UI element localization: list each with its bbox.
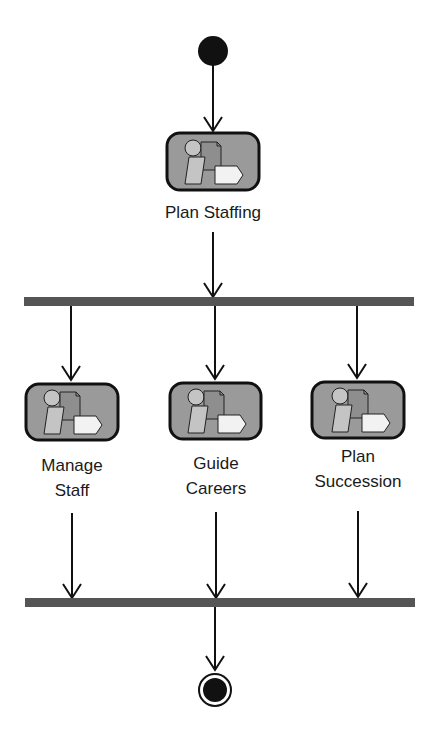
edge-start-to-plan-staffing: [204, 64, 222, 131]
edge-fork-to-plan-succession: [348, 306, 366, 378]
activity-plan-succession[interactable]: [312, 382, 404, 438]
label-manage-staff: Manage Staff: [41, 453, 102, 503]
activity-plan-staffing[interactable]: [167, 133, 259, 190]
edge-fork-to-guide-careers: [206, 306, 224, 379]
label-line: Staff: [41, 478, 102, 503]
label-guide-careers: Guide Careers: [186, 451, 246, 501]
activity-manage-staff[interactable]: [26, 384, 118, 440]
edge-fork-to-manage-staff: [62, 306, 80, 380]
label-line: Careers: [186, 476, 246, 501]
label-line: Plan Staffing: [165, 200, 261, 225]
start-node: [198, 36, 228, 66]
edge-join-to-end: [206, 607, 224, 670]
label-line: Manage: [41, 453, 102, 478]
edge-plan-succession-to-join: [349, 511, 367, 597]
edge-guide-careers-to-join: [207, 512, 225, 598]
activity-guide-careers[interactable]: [170, 383, 261, 439]
fork-bar: [24, 297, 414, 306]
edge-plan-staffing-to-fork: [204, 232, 222, 297]
end-node: [199, 674, 231, 706]
label-line: Guide: [186, 451, 246, 476]
edge-manage-staff-to-join: [63, 513, 81, 598]
label-plan-succession: Plan Succession: [315, 444, 402, 494]
label-line: Plan: [315, 444, 402, 469]
label-line: Succession: [315, 469, 402, 494]
label-plan-staffing: Plan Staffing: [165, 200, 261, 225]
join-bar: [25, 598, 415, 607]
